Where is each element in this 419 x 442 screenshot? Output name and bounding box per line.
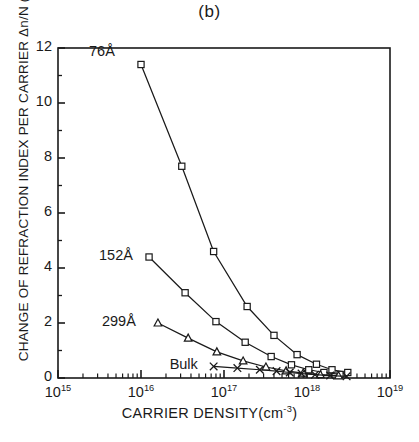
y-axis-label-symbol: Δn/N (x10 (16, 0, 31, 37)
data-point-square (211, 248, 217, 254)
series-76A (138, 61, 351, 375)
x-axis-label: CARRIER DENSITY(cm-3) (0, 404, 419, 421)
data-point-triangle (262, 363, 270, 370)
x-tick-label: 1017 (194, 383, 254, 400)
data-point-square (329, 367, 335, 373)
y-tick-label: 4 (26, 258, 52, 274)
data-point-square (213, 319, 219, 325)
data-point-square (345, 369, 351, 375)
data-point-square (288, 362, 294, 368)
series-label-Bulk: Bulk (170, 356, 198, 372)
data-point-square (306, 367, 312, 373)
data-point-square (179, 163, 185, 169)
y-tick-label: 2 (26, 313, 52, 329)
plot-area (0, 0, 419, 442)
data-point-square (321, 369, 327, 375)
y-axis-label: CHANGE OF REFRACTION INDEX PER CARRIER Δ… (15, 31, 32, 361)
x-tick-label: 1019 (360, 383, 419, 400)
series-label-76A: 76Å (89, 43, 115, 59)
data-point-triangle (317, 371, 325, 378)
data-point-cross (273, 367, 281, 375)
data-point-square (268, 353, 274, 359)
data-point-cross (311, 371, 319, 379)
data-point-cross (234, 364, 242, 372)
data-point-square (138, 61, 144, 67)
x-tick-label: 1016 (111, 383, 171, 400)
data-point-triangle (282, 367, 290, 374)
data-point-square (313, 361, 319, 367)
x-axis-label-exponent: -3 (283, 404, 292, 414)
data-point-cross (343, 373, 351, 381)
series-Bulk (210, 363, 351, 381)
data-point-cross (210, 363, 218, 371)
y-tick-label: 8 (26, 148, 52, 164)
data-series-group (138, 61, 351, 380)
data-point-square (337, 371, 343, 377)
data-point-triangle (335, 372, 343, 379)
data-point-cross (326, 372, 334, 380)
series-label-299A: 299Å (102, 313, 136, 329)
x-axis-label-text: CARRIER DENSITY(cm (122, 405, 284, 421)
data-point-square (271, 332, 277, 338)
data-point-cross (286, 369, 294, 377)
series-label-152A: 152Å (99, 247, 133, 263)
x-axis-label-tail: ) (292, 405, 297, 421)
x-tick-label: 1018 (277, 383, 337, 400)
y-tick-label: 0 (26, 368, 52, 384)
data-point-triangle (184, 334, 192, 341)
data-point-triangle (239, 357, 247, 364)
y-tick-label: 12 (26, 38, 52, 54)
page-title: (b) (0, 2, 419, 22)
data-point-square (294, 352, 300, 358)
data-point-square (242, 339, 248, 345)
data-point-square (182, 290, 188, 296)
data-point-cross (298, 370, 306, 378)
figure-panel-b: (b) CHANGE OF REFRACTION INDEX PER CARRI… (0, 0, 419, 442)
data-point-triangle (299, 369, 307, 376)
data-point-triangle (213, 348, 221, 355)
x-tick-label: 1015 (28, 383, 88, 400)
data-point-cross (256, 366, 264, 374)
y-tick-label: 6 (26, 203, 52, 219)
data-point-square (146, 254, 152, 260)
y-tick-label: 10 (26, 93, 52, 109)
data-point-square (244, 303, 250, 309)
data-point-triangle (154, 319, 162, 326)
